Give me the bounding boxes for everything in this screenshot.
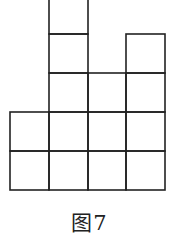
grid-cell — [49, 73, 88, 112]
grid-cell — [88, 112, 126, 151]
grid-cell — [126, 112, 165, 151]
grid-cell — [88, 73, 126, 112]
grid-figure — [0, 0, 179, 200]
grid-cell — [126, 73, 165, 112]
grid-cell — [49, 0, 88, 34]
grid-cell — [49, 34, 88, 73]
grid-cell — [10, 112, 49, 151]
grid-cell — [49, 112, 88, 151]
grid-cell — [49, 151, 88, 190]
grid-cell — [10, 151, 49, 190]
grid-cell — [126, 34, 165, 73]
figure-caption: 图7 — [0, 206, 179, 234]
grid-cell — [88, 151, 126, 190]
grid-cell — [126, 151, 165, 190]
